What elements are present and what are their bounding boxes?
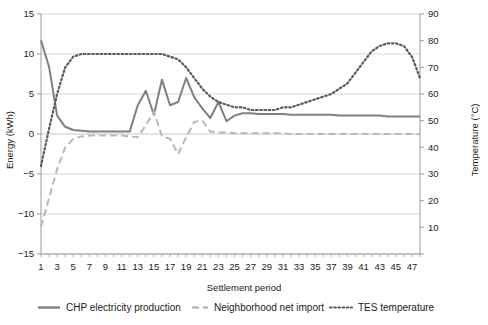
y-tick-label: −10	[18, 208, 34, 219]
y2-tick-label: 90	[428, 8, 439, 19]
x-tick-label: 1	[38, 261, 43, 272]
x-tick-label: 45	[391, 261, 402, 272]
legend-label-2: TES temperature	[358, 302, 435, 313]
x-tick-label: 35	[310, 261, 321, 272]
y2-tick-label: 40	[428, 142, 439, 153]
x-tick-label: 15	[149, 261, 160, 272]
chart-canvas: −15−10−5051015 102030405060708090 135791…	[0, 0, 488, 325]
y2-tick-label: 60	[428, 88, 439, 99]
y-tick-label: 0	[29, 128, 34, 139]
x-tick-label: 11	[117, 261, 127, 272]
x-tick-label: 33	[294, 261, 305, 272]
x-tick-label: 43	[374, 261, 385, 272]
y2-axis-tick-labels: 102030405060708090	[420, 8, 439, 254]
y-axis-tick-labels: −15−10−5051015	[18, 8, 41, 259]
series-line-1	[41, 112, 420, 227]
series-line-2	[41, 43, 420, 166]
y-axis-title: Energy (kWh)	[4, 111, 15, 169]
x-tick-label: 23	[213, 261, 224, 272]
y-tick-label: 15	[23, 8, 34, 19]
x-tick-label: 37	[326, 261, 337, 272]
y2-axis-title: Temperature (°C)	[469, 104, 480, 177]
x-tick-label: 3	[54, 261, 59, 272]
x-tick-label: 27	[245, 261, 256, 272]
y2-tick-label: 10	[428, 222, 439, 233]
y-tick-label: −15	[18, 248, 34, 259]
x-tick-label: 31	[278, 261, 289, 272]
y-tick-label: 5	[29, 88, 34, 99]
y2-tick-label: 80	[428, 35, 439, 46]
y2-tick-label: 30	[428, 168, 439, 179]
x-axis-tick-labels: 1357911131517192123252729313335373941434…	[38, 261, 417, 272]
x-tick-label: 5	[71, 261, 76, 272]
x-tick-label: 19	[181, 261, 192, 272]
x-tick-label: 17	[165, 261, 176, 272]
x-tick-label: 13	[132, 261, 143, 272]
chart-figure: −15−10−5051015 102030405060708090 135791…	[0, 0, 488, 325]
x-tick-label: 39	[342, 261, 353, 272]
legend-label-1: Neighborhood net import	[214, 302, 324, 313]
x-tick-label: 21	[197, 261, 208, 272]
x-axis-title: Settlement period	[207, 282, 281, 293]
x-tick-label: 25	[229, 261, 240, 272]
y2-tick-label: 70	[428, 62, 439, 73]
y2-tick-label: 20	[428, 195, 439, 206]
legend-label-0: CHP electricity production	[66, 302, 181, 313]
x-tick-label: 41	[358, 261, 369, 272]
chart-legend: CHP electricity productionNeighborhood n…	[38, 302, 435, 313]
y-tick-label: −5	[23, 168, 34, 179]
x-tick-label: 7	[87, 261, 92, 272]
x-tick-label: 47	[407, 261, 418, 272]
y2-tick-label: 50	[428, 115, 439, 126]
x-tick-label: 9	[103, 261, 108, 272]
y-tick-label: 10	[23, 48, 34, 59]
x-tick-label: 29	[261, 261, 272, 272]
